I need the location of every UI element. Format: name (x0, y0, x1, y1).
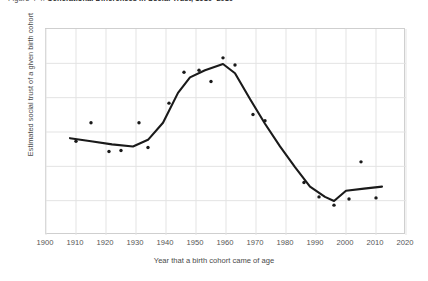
y-axis-label: Estimated social trust of a given birth … (26, 5, 35, 165)
data-point (221, 56, 224, 59)
figure-title: Figure 4-4. Generational Differences in … (8, 0, 420, 4)
data-point (317, 195, 320, 198)
data-point (359, 160, 362, 163)
data-point (197, 69, 200, 72)
data-point (251, 113, 254, 116)
data-point (74, 140, 77, 143)
plot-area (45, 28, 405, 234)
x-axis-label: Year that a birth cohort came of age (0, 256, 428, 265)
figure-container: Figure 4-4. Generational Differences in … (0, 0, 428, 281)
data-point (89, 121, 92, 124)
data-point (233, 63, 236, 66)
data-point (347, 197, 350, 200)
data-point (263, 119, 266, 122)
chart-data-layer (46, 29, 406, 235)
data-point (137, 121, 140, 124)
data-point (332, 203, 335, 206)
data-point (209, 80, 212, 83)
figure-title-text: Generational Differences in Social Trust… (47, 0, 233, 3)
y-axis-label-wrapper: Estimated social trust of a given birth … (6, 28, 24, 234)
data-point (107, 150, 110, 153)
data-point (119, 149, 122, 152)
x-axis-tick-label: 2020 (385, 238, 425, 247)
data-point (302, 181, 305, 184)
data-point (374, 196, 377, 199)
data-point (182, 71, 185, 74)
data-point (167, 101, 170, 104)
data-point (146, 146, 149, 149)
figure-number: Figure 4-4. (8, 0, 45, 3)
